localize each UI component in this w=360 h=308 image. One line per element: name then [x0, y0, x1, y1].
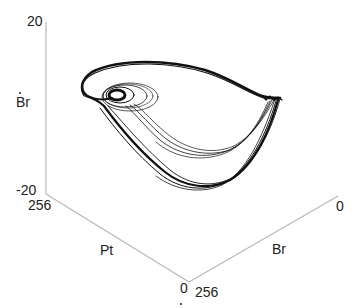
pt-axis-line [46, 194, 189, 282]
z-axis-label-text: Br [16, 95, 30, 109]
br-axis-min-tick: 0 [336, 199, 344, 213]
axes [46, 22, 338, 282]
pt-axis-label: Pt [100, 243, 113, 257]
z-axis-label: Br [16, 95, 30, 109]
pt-axis-max-tick: 256 [28, 198, 51, 212]
z-axis-min-tick: -20 [16, 183, 36, 197]
br-axis-line [189, 196, 338, 282]
bottom-dot-mark [180, 303, 182, 305]
pt-axis-min-tick: 0 [180, 281, 188, 295]
br-axis-label: Br [272, 242, 286, 256]
phase-portrait-plot [0, 0, 360, 308]
z-axis-max-tick: 20 [27, 14, 43, 28]
br-axis-max-tick: 256 [195, 285, 218, 299]
trajectory-curves [82, 62, 282, 190]
